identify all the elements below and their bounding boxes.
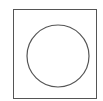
inner-circle [27, 25, 89, 87]
diagram-canvas [0, 0, 103, 101]
outer-square [14, 10, 97, 99]
